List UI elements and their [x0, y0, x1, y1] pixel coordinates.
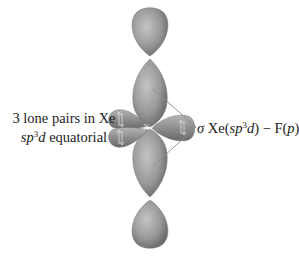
top-f-lobe: [132, 8, 168, 56]
bottom-f-lobe: [132, 200, 168, 248]
lone-pairs-label-line2: sp3d equatorial: [4, 130, 124, 145]
sigma-bond-label: σ Xe(sp3d) − F(p): [197, 121, 299, 136]
lone-pairs-label-line1: 3 lone pairs in Xe: [12, 110, 115, 126]
xe-atom-label: Xe: [143, 122, 154, 132]
lone-pairs-label: 3 lone pairs in Xe sp3d equatorial: [4, 111, 124, 144]
upper-axial-lobe: [133, 59, 167, 127]
